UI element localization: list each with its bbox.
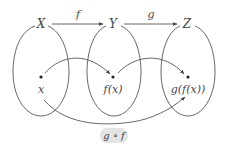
set-x-label: X — [36, 17, 46, 31]
set-z-ellipse — [161, 26, 215, 116]
set-x-ellipse — [13, 26, 69, 116]
set-z-label: Z — [182, 17, 192, 31]
set-y-ellipse — [87, 26, 141, 116]
element-fx-dot — [111, 75, 114, 78]
mapping-arrow-f — [45, 58, 110, 74]
element-gfx-dot — [186, 75, 189, 78]
composition-arrow — [44, 97, 185, 124]
element-x-label: x — [38, 83, 45, 96]
element-x-dot — [39, 75, 42, 78]
element-gfx-label: g(f(x)) — [171, 83, 205, 96]
arrow-g-label: g — [147, 8, 154, 21]
element-fx-label: f(x) — [103, 83, 123, 96]
set-y-label: Y — [109, 17, 118, 31]
composition-diagram: X Y Z f g x f(x) g(f(x)) g ∘ f — [0, 0, 228, 152]
mapping-arrow-g — [118, 58, 184, 74]
composition-label: g ∘ f — [103, 130, 127, 141]
arrow-f-label: f — [75, 8, 82, 21]
